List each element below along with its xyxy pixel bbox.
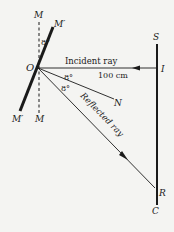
label-s: S	[153, 32, 159, 42]
label-angle-incident: 8°	[64, 73, 73, 82]
label-c: C	[152, 206, 159, 216]
label-incident-ray: Incident ray	[65, 56, 118, 66]
reflected-ray-line	[38, 68, 155, 188]
label-o: O	[26, 62, 34, 73]
label-m-prime-bottom: M′	[11, 114, 23, 124]
optics-diagram: M M′ 8° O Incident ray 100 cm 8° 8° N Re…	[0, 0, 174, 232]
label-m-prime-top: M′	[53, 19, 65, 29]
label-i: I	[160, 64, 165, 74]
label-n: N	[113, 98, 123, 108]
label-r: R	[158, 188, 166, 198]
label-angle-mirror: 8°	[41, 38, 50, 47]
label-distance: 100 cm	[98, 71, 128, 80]
label-m-bottom: M	[34, 114, 45, 124]
label-m-top: M	[33, 10, 44, 20]
label-angle-reflected: 8°	[61, 84, 70, 93]
incident-arrow-icon	[132, 66, 140, 71]
